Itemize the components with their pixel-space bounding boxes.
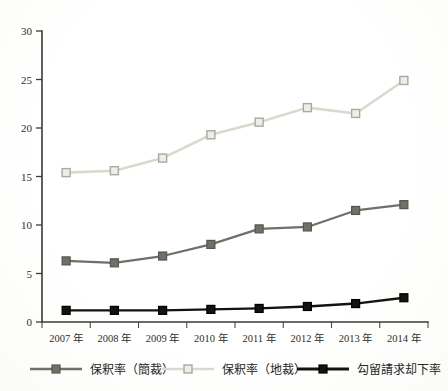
axis-lines [42,31,428,322]
chart-series [62,294,408,315]
series-marker [110,259,118,267]
x-tick-label: 2013 年 [339,332,373,344]
series-marker [207,240,215,248]
x-tick-label: 2014 年 [387,332,421,344]
legend-marker-swatch [52,365,60,373]
y-tick-label: 20 [21,122,33,134]
legend-label: 保釈率（簡裁） [90,362,174,377]
series-marker [110,167,118,175]
legend-item: 勾留請求却下率 [297,362,441,377]
series-marker [159,252,167,260]
y-axis-tick-labels: 051015202530 [21,25,33,328]
series-marker [352,300,360,308]
series-marker [255,225,263,233]
chart-series [62,201,408,267]
series-marker [62,306,70,314]
series-marker [255,118,263,126]
series-marker [207,305,215,313]
y-tick-label: 5 [27,268,33,280]
chart-container: 051015202530 2007 年2008 年2009 年2010 年201… [0,0,448,391]
series-marker [400,201,408,209]
series-marker [159,154,167,162]
series-marker [303,104,311,112]
legend-label: 保釈率（地裁） [222,362,306,377]
series-line [66,80,404,172]
x-tick-label: 2007 年 [49,332,83,344]
y-tick-label: 30 [21,25,33,37]
y-tick-label: 0 [27,316,33,328]
line-chart: 051015202530 2007 年2008 年2009 年2010 年201… [0,0,448,391]
series-marker [352,109,360,117]
x-tick-label: 2010 年 [194,332,228,344]
series-marker [400,294,408,302]
series-marker [400,76,408,84]
series-marker [62,257,70,265]
legend-item: 保釈率（簡裁） [30,362,174,377]
legend-label: 勾留請求却下率 [357,362,441,377]
x-tick-label: 2008 年 [98,332,132,344]
chart-legend: 保釈率（簡裁）保釈率（地裁）勾留請求却下率 [30,362,441,377]
x-tick-label: 2009 年 [146,332,180,344]
chart-series [62,76,408,176]
series-marker [303,302,311,310]
legend-marker-swatch [319,365,327,373]
series-marker [255,304,263,312]
y-tick-label: 15 [21,171,33,183]
series-marker [110,306,118,314]
series-marker [352,206,360,214]
series-marker [62,169,70,177]
x-tick-label: 2012 年 [291,332,325,344]
legend-marker-swatch [184,365,192,373]
chart-axes [36,31,428,328]
x-axis-tick-labels: 2007 年2008 年2009 年2010 年2011 年2012 年2013… [49,332,420,344]
chart-series-group [62,76,408,314]
series-marker [207,131,215,139]
legend-item: 保釈率（地裁） [162,362,306,377]
y-tick-label: 10 [21,219,33,231]
x-tick-label: 2011 年 [243,332,276,344]
series-marker [159,306,167,314]
series-marker [303,223,311,231]
y-tick-label: 25 [21,74,33,86]
